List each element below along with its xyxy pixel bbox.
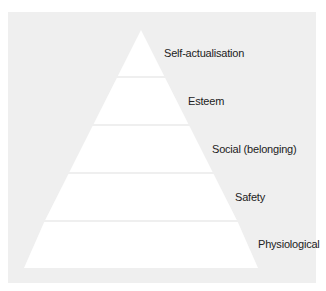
- level-label-safety: Safety: [235, 191, 265, 203]
- level-label-esteem: Esteem: [188, 95, 224, 107]
- level-label-self-actualisation: Self-actualisation: [164, 47, 244, 59]
- level-label-social: Social (belonging): [212, 143, 296, 155]
- pyramid-level-physiological: [24, 222, 258, 268]
- pyramid-level-self-actualisation: [118, 30, 164, 76]
- pyramid-level-social: [69, 126, 212, 172]
- level-label-physiological: Physiological: [258, 238, 320, 250]
- pyramid-level-esteem: [94, 78, 189, 124]
- pyramid-level-safety: [45, 174, 237, 220]
